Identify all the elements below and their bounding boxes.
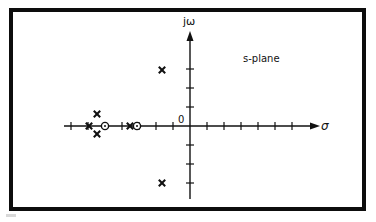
- pole-x-marker-icon: [94, 111, 100, 117]
- s-plane-plot: jω σ s-plane 0: [0, 0, 376, 222]
- sigma-axis-arrow-icon: [310, 123, 320, 130]
- caption-fragment: [6, 214, 16, 217]
- jw-axis-label: jω: [182, 15, 195, 28]
- zero-circle-marker-icon: [133, 122, 140, 129]
- pole-x-marker-icon: [159, 180, 165, 186]
- pole-zero-diagram: jω σ s-plane 0: [0, 0, 376, 222]
- zero-circle-marker-icon: [101, 122, 108, 129]
- s-plane-label: s-plane: [243, 53, 280, 64]
- pole-x-marker-icon: [94, 131, 100, 137]
- pole-x-marker-icon: [159, 67, 165, 73]
- sigma-axis-label: σ: [321, 119, 329, 133]
- jw-axis-arrow-icon: [187, 31, 194, 41]
- origin-label: 0: [178, 114, 184, 125]
